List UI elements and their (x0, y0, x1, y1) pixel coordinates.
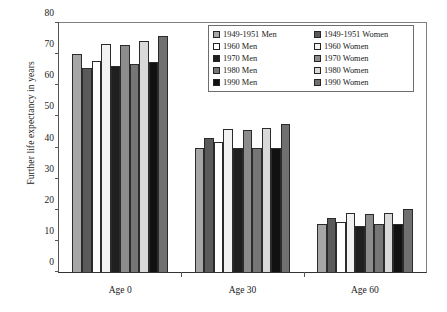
bar[interactable] (111, 66, 121, 272)
x-axis-divider (181, 272, 182, 277)
bar-group: Age 0 (59, 23, 181, 272)
legend-swatch-icon (314, 43, 321, 50)
bar[interactable] (252, 148, 262, 272)
legend-item[interactable]: 1980 Women (314, 65, 409, 76)
legend-label: 1949-1951 Women (324, 29, 388, 40)
legend-label: 1949-1951 Men (223, 29, 277, 40)
legend-swatch-icon (314, 55, 321, 62)
legend-swatch-icon (213, 79, 220, 86)
legend-item[interactable]: 1949-1951 Men (213, 29, 308, 40)
x-axis-label: Age 0 (59, 272, 181, 295)
bar[interactable] (130, 64, 140, 272)
legend-swatch-icon (314, 31, 321, 38)
bar[interactable] (336, 222, 346, 272)
y-tick-label: 20 (45, 195, 60, 205)
y-tick-label: 40 (45, 133, 60, 143)
bar[interactable] (374, 224, 384, 272)
bar[interactable] (195, 148, 205, 272)
legend-item[interactable]: 1980 Men (213, 65, 308, 76)
y-tick-label: 80 (45, 8, 60, 18)
legend-item[interactable]: 1990 Women (314, 77, 409, 88)
legend-swatch-icon (213, 67, 220, 74)
bar[interactable] (355, 226, 365, 272)
legend-label: 1990 Women (324, 77, 369, 88)
legend-item[interactable]: 1960 Men (213, 41, 308, 52)
bar[interactable] (243, 130, 253, 272)
chart-figure: Further life expectancy in years 0102030… (0, 0, 447, 312)
y-tick-label: 0 (49, 257, 59, 267)
bar[interactable] (317, 224, 327, 272)
x-axis-label: Age 60 (304, 272, 426, 295)
legend-swatch-icon (314, 67, 321, 74)
bar[interactable] (327, 218, 337, 272)
bar[interactable] (139, 41, 149, 272)
chart-legend: 1949-1951 Men1960 Men1970 Men1980 Men199… (208, 25, 414, 92)
x-axis-label: Age 30 (181, 272, 303, 295)
legend-item[interactable]: 1970 Men (213, 53, 308, 64)
legend-label: 1980 Women (324, 65, 369, 76)
bar[interactable] (82, 68, 92, 272)
legend-swatch-icon (314, 79, 321, 86)
bar[interactable] (120, 45, 130, 272)
legend-item[interactable]: 1949-1951 Women (314, 29, 409, 40)
legend-label: 1990 Men (223, 77, 257, 88)
y-tick-label: 50 (45, 101, 60, 111)
bar[interactable] (158, 36, 168, 272)
bar[interactable] (346, 213, 356, 272)
bar[interactable] (149, 62, 159, 272)
legend-swatch-icon (213, 43, 220, 50)
legend-label: 1980 Men (223, 65, 257, 76)
bar[interactable] (384, 213, 394, 272)
y-tick-label: 10 (45, 226, 60, 236)
bar[interactable] (365, 214, 375, 272)
bar[interactable] (214, 142, 224, 272)
y-axis-title: Further life expectancy in years (26, 28, 36, 218)
bar[interactable] (262, 128, 272, 272)
bar[interactable] (92, 61, 102, 272)
bar[interactable] (101, 44, 111, 272)
bar[interactable] (281, 124, 291, 272)
legend-label: 1960 Men (223, 41, 257, 52)
y-tick-label: 70 (45, 39, 60, 49)
bar[interactable] (72, 54, 82, 272)
legend-swatch-icon (213, 31, 220, 38)
bar[interactable] (233, 148, 243, 272)
bar[interactable] (403, 209, 413, 272)
bar[interactable] (223, 129, 233, 272)
legend-item[interactable]: 1990 Men (213, 77, 308, 88)
bar[interactable] (204, 138, 214, 272)
bar[interactable] (393, 224, 403, 272)
bar-set (72, 23, 167, 272)
y-tick-label: 30 (45, 164, 60, 174)
bar[interactable] (271, 148, 281, 272)
legend-swatch-icon (213, 55, 220, 62)
y-tick-label: 60 (45, 70, 60, 80)
x-axis-divider (304, 272, 305, 277)
legend-item[interactable]: 1970 Women (314, 53, 409, 64)
legend-item[interactable]: 1960 Women (314, 41, 409, 52)
legend-label: 1970 Men (223, 53, 257, 64)
legend-label: 1970 Women (324, 53, 369, 64)
legend-label: 1960 Women (324, 41, 369, 52)
